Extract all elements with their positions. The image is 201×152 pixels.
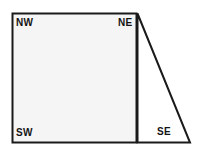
quadrant-diagram: NW NE SW SE <box>0 0 201 152</box>
quadrant-label-sw: SW <box>16 128 33 138</box>
triangle-region <box>138 14 191 143</box>
quadrant-label-se: SE <box>157 127 171 137</box>
square-region <box>13 14 137 143</box>
quadrant-label-ne: NE <box>118 18 133 28</box>
quadrant-label-nw: NW <box>16 18 33 28</box>
